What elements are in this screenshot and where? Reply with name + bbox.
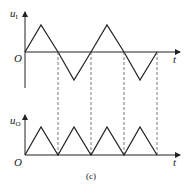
output-rectified-wave [25,127,157,155]
top-origin-label: O [14,52,22,64]
bottom-y-label: uO [10,114,21,128]
bottom-plot: uO O t [10,114,180,168]
figure-caption: (c) [86,171,96,181]
top-y-label: uI [10,7,19,21]
bottom-origin-label: O [14,156,22,168]
waveform-diagram: uI O t uO O t (c) [0,0,189,193]
top-plot: uI O t [10,7,180,88]
dashed-guides [58,52,157,155]
top-x-label: t [173,53,177,65]
bottom-x-label: t [173,156,177,168]
